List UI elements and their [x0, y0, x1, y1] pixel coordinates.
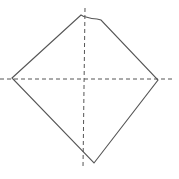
diagram-svg: [0, 0, 179, 179]
geometry-diagram: [0, 0, 179, 179]
vertical-dashed-axis: [83, 8, 85, 168]
